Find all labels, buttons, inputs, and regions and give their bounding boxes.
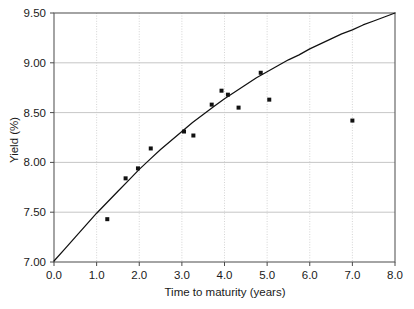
data-point	[210, 103, 214, 107]
data-point	[105, 217, 109, 221]
data-point	[191, 134, 195, 138]
x-tick-label: 0.0	[46, 269, 62, 281]
chart-figure: 7.007.508.008.509.009.50 0.01.02.03.04.0…	[0, 0, 414, 309]
y-tick-label: 9.00	[24, 57, 46, 69]
x-axis-title: Time to maturity (years)	[165, 286, 286, 298]
x-axis-tick-labels: 0.01.02.03.04.05.06.07.08.0	[46, 269, 403, 281]
x-tick-label: 4.0	[217, 269, 233, 281]
x-tick-label: 3.0	[174, 269, 190, 281]
y-tick-label: 7.50	[24, 206, 46, 218]
data-point	[350, 119, 354, 123]
x-tick-label: 5.0	[259, 269, 275, 281]
x-tick-label: 1.0	[89, 269, 105, 281]
data-point	[149, 146, 153, 150]
data-point	[182, 130, 186, 134]
x-tick-label: 2.0	[131, 269, 147, 281]
data-point	[226, 93, 230, 97]
y-tick-label: 7.00	[24, 256, 46, 268]
x-tick-label: 8.0	[387, 269, 403, 281]
x-tick-label: 7.0	[344, 269, 360, 281]
data-point	[237, 106, 241, 110]
data-point	[220, 89, 224, 93]
y-tick-label: 9.50	[24, 7, 46, 19]
data-point	[259, 71, 263, 75]
data-point	[124, 176, 128, 180]
data-point	[267, 98, 271, 102]
y-tick-label: 8.50	[24, 107, 46, 119]
data-point	[136, 166, 140, 170]
scatter-plot-canvas: 7.007.508.008.509.009.50 0.01.02.03.04.0…	[0, 0, 414, 309]
y-tick-label: 8.00	[24, 156, 46, 168]
y-axis-title: Yield (%)	[8, 117, 20, 163]
x-tick-label: 6.0	[302, 269, 318, 281]
